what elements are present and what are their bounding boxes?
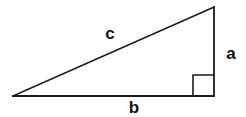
label-horizontal-leg-b: b [129, 98, 139, 117]
triangle-figure: c a b [0, 0, 246, 117]
label-vertical-leg-a: a [226, 44, 236, 63]
label-hypotenuse-c: c [105, 24, 114, 43]
diagram-background [0, 0, 246, 117]
right-triangle-diagram: c a b [0, 0, 246, 117]
